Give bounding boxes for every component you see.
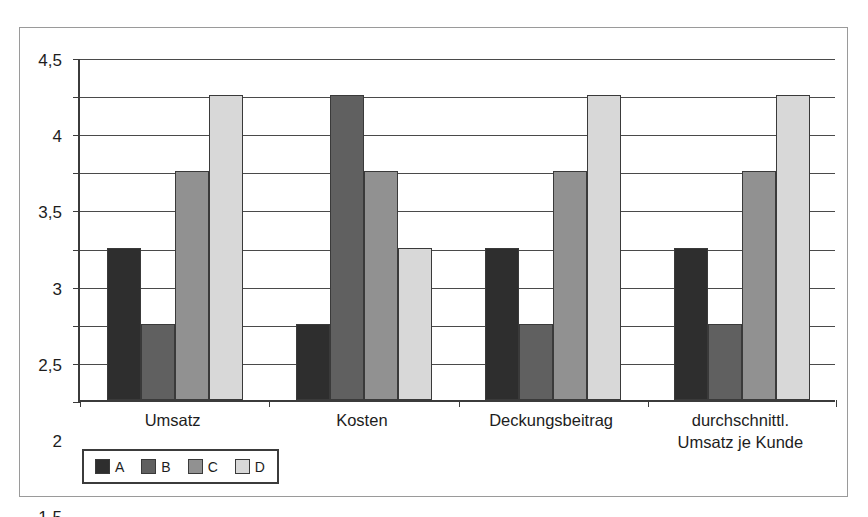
bar-a-1 bbox=[107, 248, 141, 400]
bar-c-4 bbox=[742, 171, 776, 400]
y-axis-tick: 1,5 bbox=[73, 288, 80, 289]
x-axis-label-line: durchschnittl. bbox=[646, 409, 835, 431]
bar-group bbox=[648, 59, 837, 400]
y-axis-tick: 4 bbox=[73, 97, 80, 98]
x-axis-label-4: durchschnittl.Umsatz je Kunde bbox=[646, 409, 835, 454]
x-axis-label-1: Umsatz bbox=[78, 409, 267, 431]
bar-b-4 bbox=[708, 324, 742, 400]
legend-label: D bbox=[255, 460, 265, 474]
x-axis-label-line: Deckungsbeitrag bbox=[457, 409, 646, 431]
legend-label: C bbox=[208, 460, 218, 474]
bar-d-4 bbox=[776, 95, 810, 400]
y-axis-tick-label: 4,5 bbox=[38, 52, 62, 69]
legend-item-d[interactable]: D bbox=[235, 459, 265, 474]
legend-swatch-b bbox=[141, 459, 156, 474]
x-axis-label-3: Deckungsbeitrag bbox=[457, 409, 646, 431]
bar-d-3 bbox=[587, 95, 621, 400]
x-axis-label-line: Umsatz je Kunde bbox=[646, 431, 835, 453]
bar-b-3 bbox=[519, 324, 553, 400]
legend-label: A bbox=[115, 460, 124, 474]
x-axis-label-line: Umsatz bbox=[78, 409, 267, 431]
bar-a-3 bbox=[485, 248, 519, 400]
y-axis-tick: 4,5 bbox=[73, 59, 80, 60]
bar-a-2 bbox=[296, 324, 330, 400]
bar-c-2 bbox=[364, 171, 398, 400]
y-axis-tick: 2 bbox=[73, 250, 80, 251]
bar-d-1 bbox=[209, 95, 243, 400]
bar-group bbox=[80, 59, 269, 400]
legend-swatch-d bbox=[235, 459, 250, 474]
y-axis-tick: 3,5 bbox=[73, 135, 80, 136]
y-axis-tick: 0,5 bbox=[73, 364, 80, 365]
y-axis-tick: 2,5 bbox=[73, 211, 80, 212]
x-axis-tick bbox=[836, 400, 837, 407]
bar-c-3 bbox=[553, 171, 587, 400]
bar-a-4 bbox=[674, 248, 708, 400]
y-axis-tick-label: 3 bbox=[53, 280, 62, 297]
x-axis-tick bbox=[269, 400, 270, 407]
y-axis-tick: 3 bbox=[73, 173, 80, 174]
y-axis-tick-label: 2 bbox=[53, 433, 62, 450]
legend-swatch-a bbox=[95, 459, 110, 474]
bar-c-1 bbox=[175, 171, 209, 400]
x-axis-tick bbox=[459, 400, 460, 407]
x-axis-label-line: Kosten bbox=[267, 409, 456, 431]
y-axis-tick: 1 bbox=[73, 326, 80, 327]
chart-legend: ABCD bbox=[82, 449, 279, 484]
legend-label: B bbox=[161, 460, 170, 474]
chart-figure: 00,511,522,533,544,5 UmsatzKostenDeckung… bbox=[19, 27, 848, 497]
x-axis-tick bbox=[648, 400, 649, 407]
bar-b-2 bbox=[330, 95, 364, 400]
bar-group bbox=[269, 59, 458, 400]
y-axis-tick-label: 1,5 bbox=[38, 509, 62, 517]
y-axis-tick-label: 4 bbox=[53, 128, 62, 145]
bar-d-2 bbox=[398, 248, 432, 400]
legend-swatch-c bbox=[188, 459, 203, 474]
x-axis-label-2: Kosten bbox=[267, 409, 456, 431]
plot-area: 00,511,522,533,544,5 bbox=[78, 59, 835, 402]
bar-group bbox=[459, 59, 648, 400]
legend-item-b[interactable]: B bbox=[141, 459, 170, 474]
legend-item-c[interactable]: C bbox=[188, 459, 218, 474]
y-axis-tick-label: 2,5 bbox=[38, 356, 62, 373]
bar-b-1 bbox=[141, 324, 175, 400]
y-axis-tick-label: 3,5 bbox=[38, 204, 62, 221]
y-axis-tick: 0 bbox=[73, 402, 80, 403]
legend-item-a[interactable]: A bbox=[95, 459, 124, 474]
x-axis-tick bbox=[80, 400, 81, 407]
